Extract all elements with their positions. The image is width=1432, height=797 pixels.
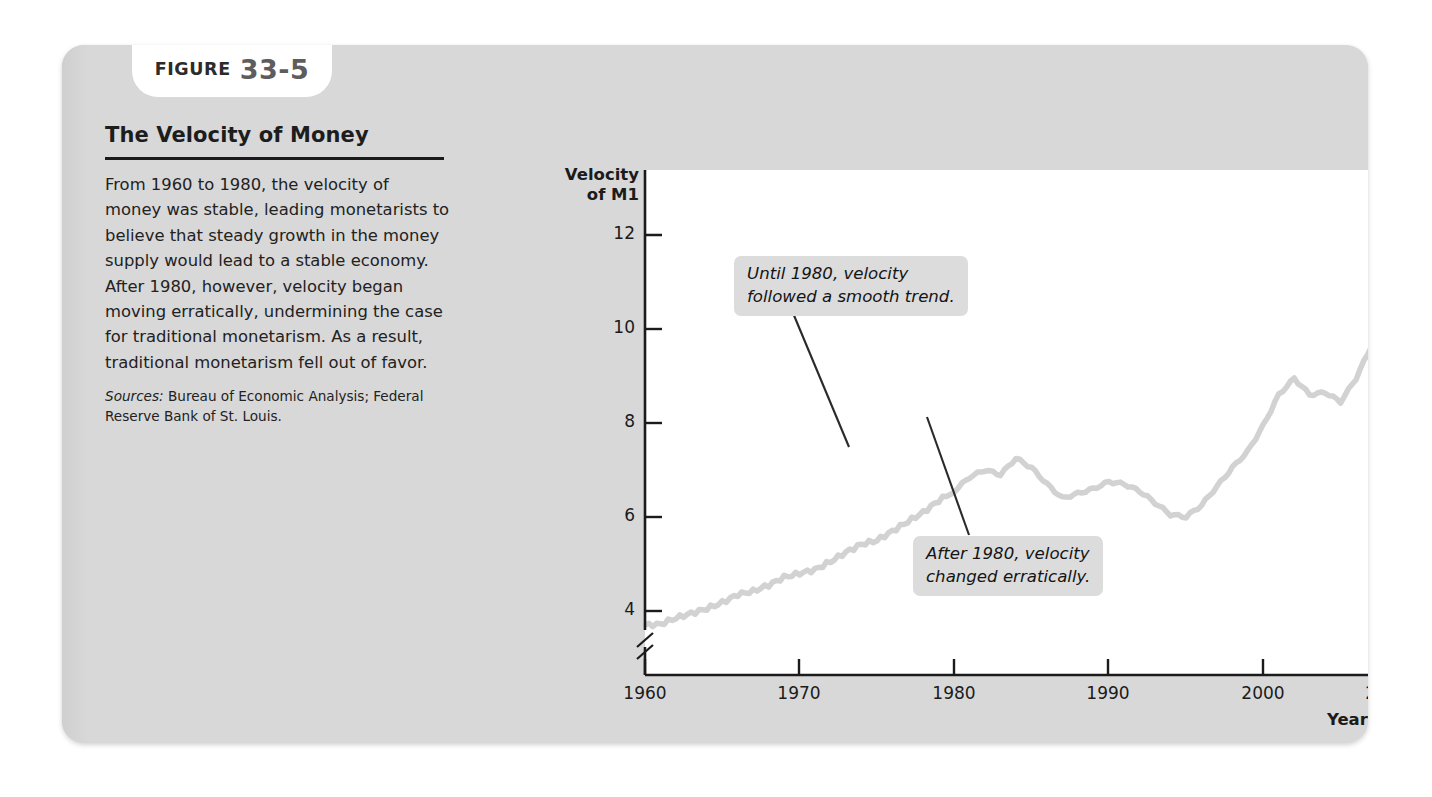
sources-label: Sources: (105, 388, 164, 404)
callout-1-leader (793, 313, 849, 447)
figure-caption-text: From 1960 to 1980, the velocity of money… (105, 172, 450, 375)
x-tick-label-1990: 1990 (1073, 683, 1143, 703)
annotation-callout-smooth-trend: Until 1980, velocity followed a smooth t… (734, 256, 968, 316)
annotation-2-line2: changed erratically. (926, 565, 1090, 588)
y-tick-label-8: 8 (595, 411, 635, 431)
y-tick-label-10: 10 (595, 317, 635, 337)
y-tick-label-12: 12 (595, 223, 635, 243)
chart-container: Velocity of M1 (457, 85, 1357, 725)
annotation-1-line1: Until 1980, velocity (747, 262, 955, 285)
y-axis-ticks (645, 235, 662, 611)
x-tick-label-1980: 1980 (919, 683, 989, 703)
figure-word-label: FIGURE (155, 59, 231, 79)
x-tick-label-2008: 2008 (1352, 683, 1368, 703)
annotation-2-line1: After 1980, velocity (926, 542, 1090, 565)
title-divider (105, 157, 444, 160)
figure-sources: Sources: Bureau of Economic Analysis; Fe… (105, 387, 450, 426)
figure-title: The Velocity of Money (105, 123, 450, 147)
annotation-1-line2: followed a smooth trend. (747, 285, 955, 308)
callout-2-leader (927, 417, 969, 535)
caption-column: The Velocity of Money From 1960 to 1980,… (105, 123, 450, 426)
x-axis-title: Year (1327, 710, 1368, 729)
x-axis-ticks (645, 659, 1368, 675)
chart-svg (457, 85, 1357, 725)
y-tick-label-4: 4 (595, 599, 635, 619)
x-tick-label-1970: 1970 (764, 683, 834, 703)
figure-card: FIGURE 33-5 The Velocity of Money From 1… (62, 45, 1368, 743)
figure-number-tab: FIGURE 33-5 (132, 45, 332, 97)
y-tick-label-6: 6 (595, 505, 635, 525)
x-tick-label-1960: 1960 (610, 683, 680, 703)
annotation-callout-erratic: After 1980, velocity changed erratically… (913, 536, 1103, 596)
x-tick-label-2000: 2000 (1228, 683, 1298, 703)
figure-number-label: 33-5 (240, 54, 310, 85)
